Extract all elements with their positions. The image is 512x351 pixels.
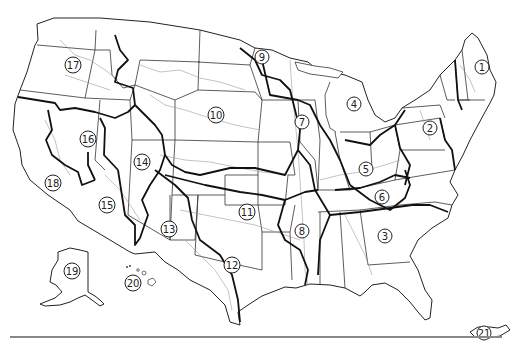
us-hydrologic-regions-map: 1 2 3 4 5 6 7 8 9 10 11 12 13 14 15 16 1… (0, 0, 512, 351)
svg-text:11: 11 (241, 207, 254, 218)
region-label-10: 10 (208, 107, 224, 123)
region-label-8: 8 (295, 224, 309, 238)
region-label-16: 16 (80, 131, 96, 147)
svg-text:16: 16 (82, 134, 95, 145)
region-label-18: 18 (45, 175, 61, 191)
svg-text:3: 3 (382, 231, 388, 242)
svg-text:6: 6 (379, 192, 385, 203)
svg-text:8: 8 (299, 226, 305, 237)
region-label-3: 3 (378, 229, 392, 243)
svg-text:1: 1 (479, 62, 485, 73)
svg-text:2: 2 (427, 123, 433, 134)
svg-text:10: 10 (210, 110, 223, 121)
region-label-17: 17 (65, 57, 81, 73)
region-label-7: 7 (295, 115, 309, 129)
svg-text:7: 7 (299, 117, 305, 128)
region-label-15: 15 (99, 197, 115, 213)
svg-text:18: 18 (47, 178, 60, 189)
region-label-19: 19 (64, 263, 80, 279)
bottom-rule (10, 336, 502, 338)
svg-text:20: 20 (127, 278, 140, 289)
region-label-5: 5 (359, 162, 373, 176)
svg-text:14: 14 (136, 157, 149, 168)
region-label-13: 13 (161, 221, 177, 237)
region-label-2: 2 (423, 121, 437, 135)
region-label-20: 20 (125, 275, 141, 291)
region-label-6: 6 (375, 190, 389, 204)
svg-text:9: 9 (259, 52, 265, 63)
svg-text:12: 12 (226, 260, 239, 271)
region-label-9: 9 (255, 50, 269, 64)
svg-text:5: 5 (363, 164, 369, 175)
region-label-12: 12 (224, 257, 240, 273)
svg-text:13: 13 (163, 224, 176, 235)
region-label-14: 14 (134, 154, 150, 170)
svg-text:15: 15 (101, 200, 114, 211)
region-label-11: 11 (239, 204, 255, 220)
svg-text:19: 19 (66, 266, 79, 277)
svg-text:4: 4 (351, 99, 357, 110)
region-label-4: 4 (347, 97, 361, 111)
svg-text:17: 17 (67, 60, 80, 71)
region-label-1: 1 (475, 60, 489, 74)
